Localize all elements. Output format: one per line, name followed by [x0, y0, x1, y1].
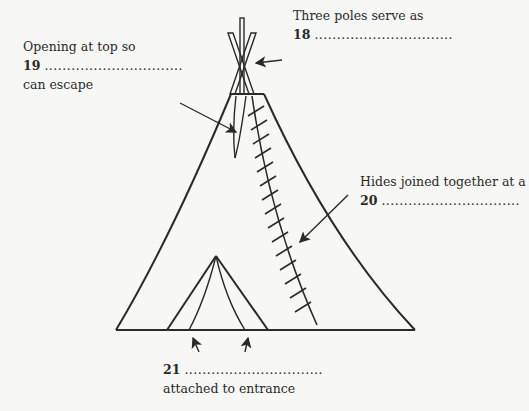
question-number: 21 — [163, 362, 180, 377]
answer-blank[interactable]: ............................... — [184, 362, 323, 377]
label-text: Hides joined together at a — [360, 172, 526, 191]
answer-blank[interactable]: ............................... — [381, 193, 520, 208]
question-number: 18 — [293, 27, 310, 42]
arrow-18-icon — [256, 60, 282, 63]
label-text: attached to entrance — [163, 379, 323, 398]
label-opening: Opening at top so 19 ...................… — [23, 37, 183, 94]
label-hides: Hides joined together at a 20 ..........… — [360, 172, 526, 210]
label-text: Three poles serve as — [293, 6, 453, 25]
answer-blank[interactable]: ............................... — [314, 27, 453, 42]
label-text: can escape — [23, 75, 183, 94]
poles-icon — [228, 18, 256, 94]
teepee-body — [116, 94, 415, 330]
label-entrance: 21 ............................... attac… — [163, 360, 323, 398]
answer-blank[interactable]: ............................... — [44, 58, 183, 73]
question-number: 20 — [360, 193, 377, 208]
arrow-21b-icon — [245, 338, 248, 352]
stitched-seam — [248, 96, 317, 325]
label-text: Opening at top so — [23, 37, 183, 56]
arrow-19-icon — [180, 103, 236, 132]
arrow-21a-icon — [193, 338, 199, 352]
question-number: 19 — [23, 58, 40, 73]
label-poles: Three poles serve as 18 ................… — [293, 6, 453, 44]
